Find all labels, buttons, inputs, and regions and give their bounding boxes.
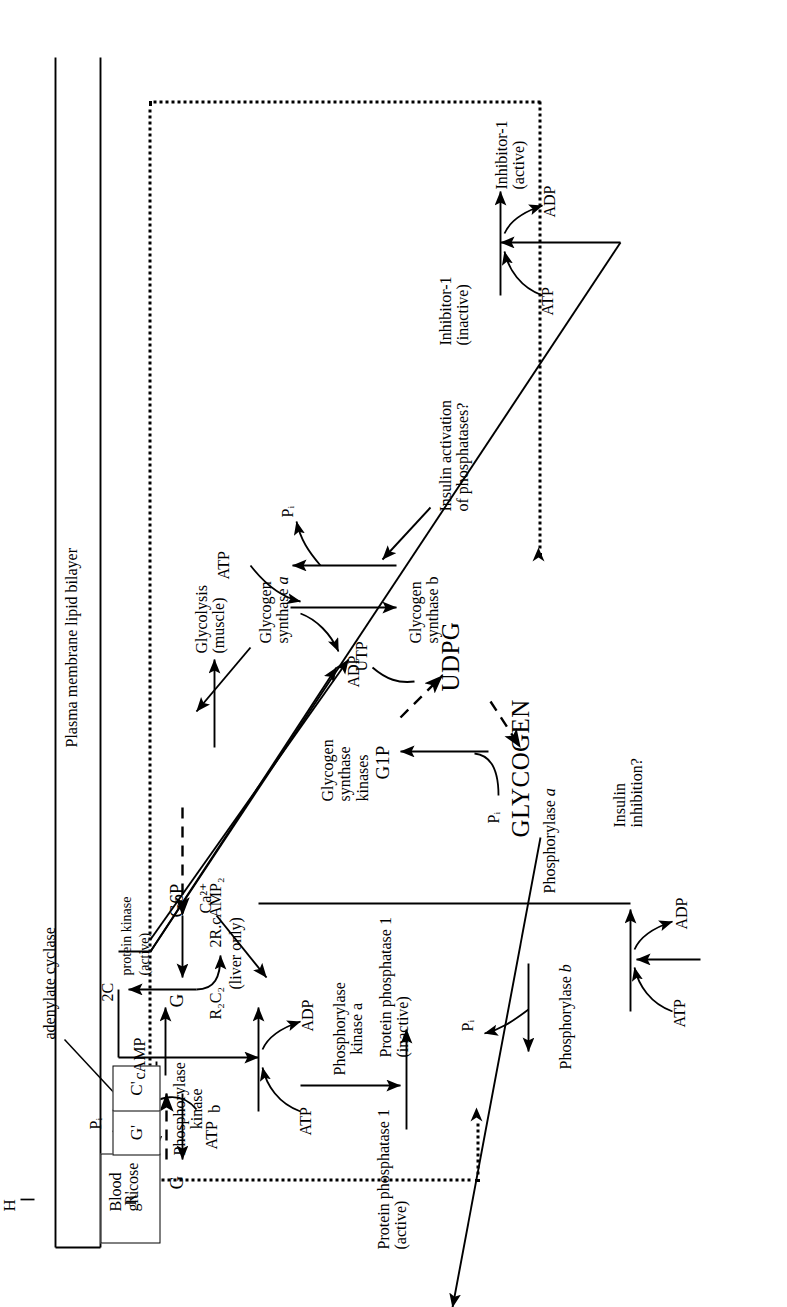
adp-out-curve-ph — [634, 921, 672, 949]
glucose-blood-label: G — [166, 1175, 187, 1189]
glycogen-label: GLYCOGEN — [506, 699, 533, 837]
to-2Rcamp2-arrow — [196, 955, 220, 989]
pp1-active-label: Protein phosphatase 1(active) — [374, 1109, 409, 1249]
insulin-inhibition-label: Insulininhibition? — [610, 758, 645, 827]
r2c2-label: R₂C₂ — [206, 987, 223, 1020]
synthase-a-leader — [196, 647, 250, 711]
g-protein-box[interactable]: G' — [112, 1109, 160, 1155]
pi-label-pk: Pᵢ — [86, 1117, 103, 1129]
pp1-inactive-label: Protein phosphatase 1(inactive) — [376, 917, 411, 1057]
pi-out-curve-ph — [484, 1009, 528, 1033]
adenylate-cyclase-label: adenylate cyclase — [40, 927, 57, 1039]
2c-label: 2C — [98, 982, 115, 1001]
pi-label-ph: Pᵢ — [458, 1019, 475, 1031]
atp-in-curve-pk — [262, 1067, 300, 1111]
g1p-label: G1P — [372, 745, 393, 779]
g-protein-label: G' — [126, 1124, 146, 1139]
inhibitor1-inactive-label: Inhibitor-1(inactive) — [436, 276, 471, 345]
liver-only-label: (liver only) — [226, 917, 243, 989]
adp-out-curve-gs — [300, 613, 338, 651]
hormone-label: H — [0, 1199, 18, 1211]
pp1-dotted-to-synthase — [538, 101, 541, 555]
adp-label-ph: ADP — [672, 897, 689, 929]
catalytic-subunit-label: C' — [126, 1081, 146, 1095]
adp-label-pk: ADP — [298, 999, 315, 1031]
atp-label-pk: ATP — [296, 1107, 313, 1135]
pi-label-gs: Pᵢ — [278, 505, 295, 517]
insulin-activation-label: Insulin activationof phosphatases? — [436, 399, 471, 511]
inhibitor1-active-label: Inhibitor-1(active) — [492, 120, 527, 189]
glycogen-synthase-a-label: Glycogensynthase a — [256, 576, 291, 643]
atp-label-i1: ATP — [538, 287, 555, 315]
adp-label-i1: ADP — [540, 185, 557, 217]
pp1-dotted-right-vertical — [148, 100, 540, 103]
utp-in-curve — [372, 667, 414, 681]
glucose-cell-label: G — [166, 993, 187, 1007]
pi-in-curve-glycogen — [474, 753, 498, 795]
pathway-diagram-canvas: R' G' C' H adenylate cyclase Plasma memb… — [0, 0, 787, 1307]
blood-glucose-label: Bloodglucose — [106, 1162, 141, 1211]
atp-label-gs: ATP — [214, 551, 231, 579]
phosphorylase-a-leader — [452, 837, 540, 1307]
glycogen-synthase-kinases-label: Glycogensynthasekinases — [318, 739, 370, 801]
pp1-dotted-left-vertical — [148, 1178, 478, 1181]
pp1-dotted-to-phosphorylase — [476, 1123, 479, 1181]
phosphorylase-kinase-b-label: Phosphorylasekinaseb — [170, 1062, 222, 1155]
camp-label: cAMP — [130, 1037, 147, 1079]
g6p-label: G6P — [166, 883, 187, 917]
figure-page: R' G' C' H adenylate cyclase Plasma memb… — [0, 0, 787, 1307]
adp-out-curve-pk — [262, 1021, 300, 1049]
insulin-activation-arrow — [382, 507, 430, 559]
adp-out-curve-i1 — [504, 205, 542, 233]
atp-label-ph: ATP — [670, 999, 687, 1027]
calcium-label: Ca²⁺ — [196, 882, 213, 913]
pi-out-curve-gs — [296, 521, 320, 565]
phosphorylase-kinase-a-label: Phosphorylasekinase a — [330, 982, 365, 1075]
plasma-membrane-label: Plasma membrane lipid bilayer — [62, 548, 79, 748]
protein-kinase-state: (active) — [136, 932, 151, 975]
protein-kinase-name: protein kinase — [118, 896, 133, 975]
glycogen-synthase-b-label: Glycogensynthase b — [406, 576, 441, 643]
dotted-arrowhead-phosphorylase — [470, 1107, 482, 1121]
atp-in-curve-ph — [634, 967, 672, 1011]
phosphorylase-b-label: Phosphorylase b — [556, 964, 573, 1069]
atp-in-curve-i1 — [504, 251, 542, 295]
pi-label-glycogen: Pᵢ — [484, 811, 501, 823]
glycolysis-label: Glycolysis(muscle) — [192, 585, 227, 653]
phosphorylase-a-label: Phosphorylase a — [540, 788, 557, 893]
adp-label-gs: ADP — [344, 655, 361, 687]
pp1-dotted-horizontal — [148, 101, 151, 1181]
